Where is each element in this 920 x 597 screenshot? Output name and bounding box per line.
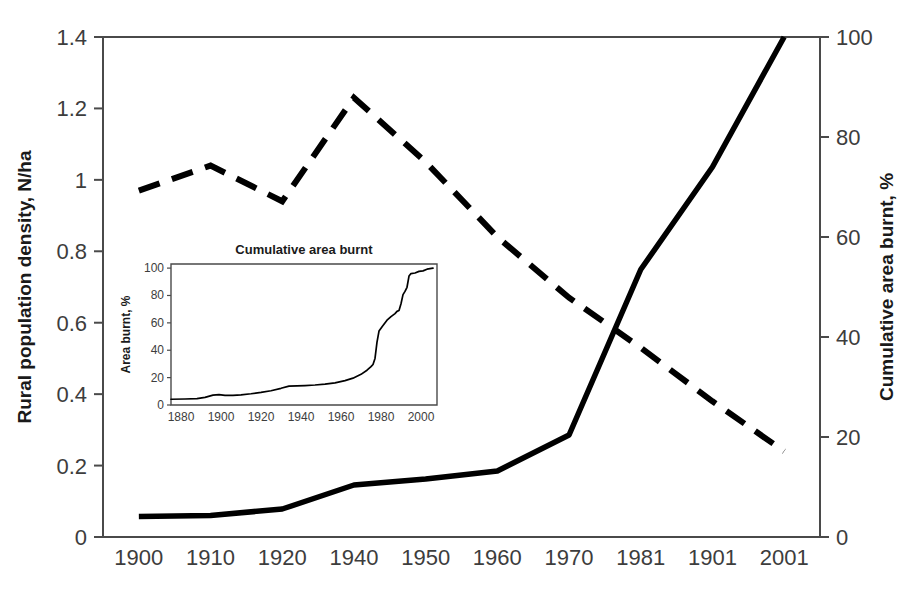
inset-x-tick-label: 1960 (328, 410, 355, 424)
x-tick-label: 1950 (401, 545, 450, 570)
figure-container: 00.20.40.60.811.21.4 020406080100 190019… (0, 0, 920, 597)
x-tick-label: 1901 (688, 545, 737, 570)
inset-x-tick-label: 2000 (408, 410, 435, 424)
right-axis-title: Cumulative area burnt, % (876, 173, 897, 401)
left-axis-title: Rural population density, N/ha (14, 150, 35, 423)
x-tick-label: 1981 (616, 545, 665, 570)
chart-figure: 00.20.40.60.811.21.4 020406080100 190019… (0, 0, 920, 597)
inset-y-tick-label: 40 (151, 343, 165, 357)
left-tick-label: 0.6 (56, 311, 87, 336)
inset-y-axis-title: Area burnt, % (119, 295, 133, 373)
inset-x-tick-label: 1940 (288, 410, 315, 424)
x-tick-label: 2001 (760, 545, 809, 570)
left-tick-label: 0.4 (56, 382, 87, 407)
x-tick-label: 1910 (186, 545, 235, 570)
inset-y-tick-label: 20 (151, 371, 165, 385)
inset-y-tick-label: 60 (151, 316, 165, 330)
inset-title: Cumulative area burnt (235, 242, 373, 257)
inset-x-tick-label: 1900 (208, 410, 235, 424)
right-tick-label: 60 (836, 225, 860, 250)
right-tick-label: 80 (836, 125, 860, 150)
inset-x-tick-label: 1880 (168, 410, 195, 424)
x-tick-label: 1940 (329, 545, 378, 570)
right-tick-label: 20 (836, 425, 860, 450)
inset-x-tick-label: 1980 (368, 410, 395, 424)
left-tick-label: 1.2 (56, 96, 87, 121)
inset-y-tick-label: 80 (151, 288, 165, 302)
right-tick-label: 100 (836, 25, 873, 50)
left-tick-label: 0 (75, 525, 87, 550)
left-tick-label: 0.2 (56, 454, 87, 479)
inset-y-tick-label: 0 (157, 398, 164, 412)
right-tick-label: 40 (836, 325, 860, 350)
x-tick-label: 1900 (114, 545, 163, 570)
x-tick-label: 1960 (473, 545, 522, 570)
left-tick-label: 1.4 (56, 25, 87, 50)
x-tick-label: 1920 (258, 545, 307, 570)
left-tick-label: 0.8 (56, 239, 87, 264)
left-tick-label: 1 (75, 168, 87, 193)
right-tick-label: 0 (836, 525, 848, 550)
inset-chart: Cumulative area burnt 020406080100 18801… (109, 238, 449, 431)
inset-x-tick-label: 1920 (248, 410, 275, 424)
x-tick-label: 1970 (545, 545, 594, 570)
inset-y-tick-label: 100 (144, 261, 164, 275)
